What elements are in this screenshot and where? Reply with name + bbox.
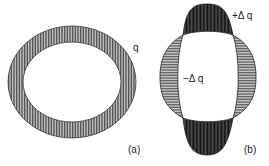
load-label-q: q	[133, 42, 139, 53]
diagram-canvas	[0, 0, 269, 166]
varied-load-shape	[160, 4, 256, 155]
caption-a: (a)	[128, 144, 140, 155]
caption-b: (b)	[244, 144, 256, 155]
negative-delta-label: −Δ q	[183, 73, 203, 84]
uniform-load-ring	[8, 26, 136, 138]
positive-delta-label: +Δ q	[232, 10, 252, 21]
